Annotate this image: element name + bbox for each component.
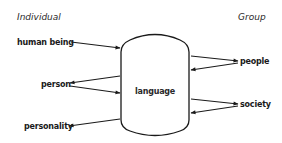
node-society: society (240, 100, 272, 109)
node-people: people (240, 57, 270, 66)
arrow-language-to-people (191, 56, 238, 61)
arrow-language-to-personality (69, 119, 120, 126)
arrow-person-to-language (70, 86, 120, 93)
language-label: language (135, 87, 176, 96)
node-person: person (41, 80, 71, 89)
header-group: Group (238, 12, 266, 22)
arrow-people-to-language (191, 63, 238, 70)
node-human-being: human being (17, 38, 74, 47)
arrow-language-to-person (70, 76, 120, 83)
header-individual: Individual (17, 12, 61, 22)
node-personality: personality (24, 122, 74, 131)
arrow-human-being-to-language (71, 42, 120, 48)
arrow-society-to-language (191, 106, 238, 113)
diagram-canvas: Individual Group language human being pe… (0, 0, 282, 143)
arrow-language-to-society (191, 99, 238, 104)
language-shape (121, 35, 189, 136)
